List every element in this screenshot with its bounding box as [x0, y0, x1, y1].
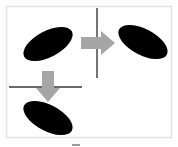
reflection-diagram [0, 0, 178, 147]
footer-mark [72, 144, 80, 146]
